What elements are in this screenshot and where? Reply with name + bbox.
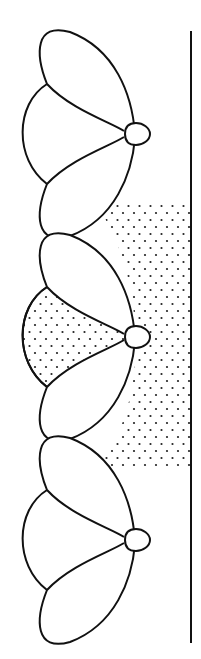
diagram-canvas xyxy=(0,0,201,659)
lobed-structure-diagram xyxy=(0,0,201,659)
